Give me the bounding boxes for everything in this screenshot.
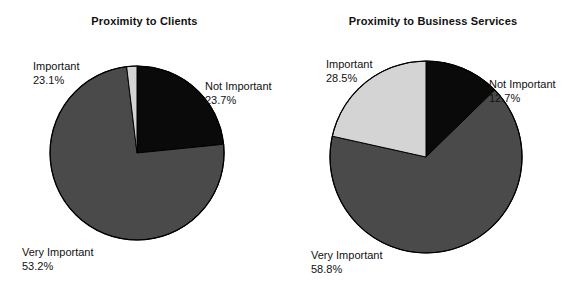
- slice-label-not-important-name: Not Important: [205, 80, 272, 94]
- slice-label-important-name: Important: [326, 58, 372, 72]
- slice-label-not-important: Not Important 23.7%: [205, 80, 272, 107]
- chart-panel-services: Proximity to Business Services Important…: [289, 0, 577, 294]
- slice-label-very-important-pct: 58.8%: [311, 263, 383, 277]
- slice-label-important-pct: 28.5%: [326, 72, 372, 86]
- slice-label-important-name: Important: [33, 60, 79, 74]
- slice-label-important: Important 23.1%: [33, 60, 79, 87]
- slice-label-important: Important 28.5%: [326, 58, 372, 85]
- slice-label-not-important-name: Not Important: [489, 78, 556, 92]
- slice-label-very-important-pct: 53.2%: [22, 260, 94, 274]
- pie-chart-figure: Proximity to Clients Important 23.1% Not…: [0, 0, 577, 294]
- slice-label-not-important-pct: 12.7%: [489, 92, 556, 106]
- chart-panel-clients: Proximity to Clients Important 23.1% Not…: [0, 0, 289, 294]
- slice-label-not-important: Not Important 12.7%: [489, 78, 556, 105]
- slice-label-very-important-name: Very Important: [22, 246, 94, 260]
- slice-label-important-pct: 23.1%: [33, 74, 79, 88]
- slice-label-very-important: Very Important 53.2%: [22, 246, 94, 273]
- slice-label-not-important-pct: 23.7%: [205, 94, 272, 108]
- slice-label-very-important: Very Important 58.8%: [311, 249, 383, 276]
- slice-label-very-important-name: Very Important: [311, 249, 383, 263]
